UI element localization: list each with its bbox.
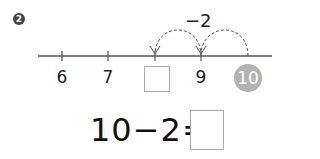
tick-label: 9 bbox=[186, 67, 216, 87]
number-line-answer-box[interactable] bbox=[144, 66, 170, 92]
tick-label: 7 bbox=[93, 67, 123, 87]
tick-label: 6 bbox=[47, 67, 77, 87]
jump-arc-1 bbox=[201, 30, 248, 56]
jump-arc-2 bbox=[155, 30, 201, 56]
jump-label: −2 bbox=[185, 10, 212, 31]
equation-answer-box[interactable] bbox=[190, 110, 224, 150]
highlighted-start-label: 10 bbox=[234, 64, 262, 92]
